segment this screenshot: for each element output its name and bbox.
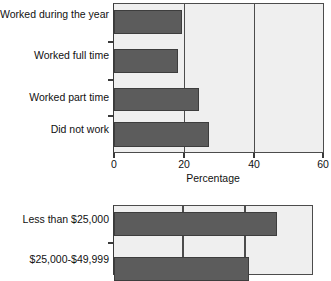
y-tick-3 — [108, 115, 114, 117]
bar-25000-49999 — [114, 257, 249, 281]
plot-area-work-experience — [113, 3, 324, 153]
x-tick-label-0: 0 — [101, 159, 127, 170]
gridline-40 — [254, 4, 256, 152]
x-tick-label-60: 60 — [310, 159, 331, 170]
bar-worked-part-time — [114, 88, 199, 111]
x-axis-title-percentage: Percentage — [153, 173, 273, 184]
category-label-worked-part-time: Worked part time — [0, 92, 109, 103]
bar-worked-during-the-year — [114, 10, 182, 34]
y-tick-1 — [108, 41, 114, 43]
bar-less-than-25000 — [114, 212, 277, 236]
category-label-less-than-25000: Less than $25,000 — [0, 214, 109, 225]
bar-worked-full-time — [114, 49, 178, 73]
category-label-25000-49999: $25,000-$49,999 — [0, 254, 109, 265]
y-tick-income-1 — [108, 242, 114, 244]
x-tick-label-20: 20 — [171, 159, 197, 170]
plot-area-income — [113, 205, 313, 275]
bar-did-not-work — [114, 122, 209, 147]
category-label-worked-during-the-year: Worked during the year — [0, 9, 109, 20]
x-tick-label-40: 40 — [241, 159, 267, 170]
y-tick-2 — [108, 79, 114, 81]
category-label-did-not-work: Did not work — [0, 124, 109, 135]
category-label-worked-full-time: Worked full time — [0, 50, 109, 61]
